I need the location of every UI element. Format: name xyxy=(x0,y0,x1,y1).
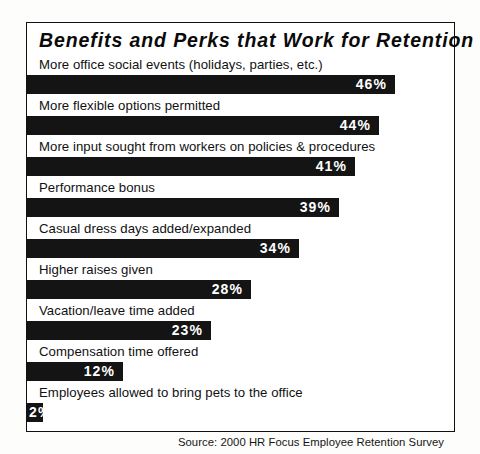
bar-fill xyxy=(27,116,379,135)
bar-category-label: Employees allowed to bring pets to the o… xyxy=(27,383,454,403)
bar-value-label: 28% xyxy=(212,280,243,299)
bar-category-label: More office social events (holidays, par… xyxy=(27,55,454,75)
bar-track: 39% xyxy=(27,198,454,217)
bar-track: 44% xyxy=(27,116,454,135)
bar-value-label: 2% xyxy=(29,403,51,422)
bar-category-label: Vacation/leave time added xyxy=(27,301,454,321)
bar-track: 12% xyxy=(27,362,454,381)
bar-track: 41% xyxy=(27,157,454,176)
bar-row: Higher raises given28% xyxy=(27,260,454,301)
chart-title: Benefits and Perks that Work for Retenti… xyxy=(27,23,454,55)
chart-card: Benefits and Perks that Work for Retenti… xyxy=(26,22,455,432)
source-note: Source: 2000 HR Focus Employee Retention… xyxy=(27,424,454,448)
bar-row: More input sought from workers on polici… xyxy=(27,137,454,178)
bar-value-label: 23% xyxy=(172,321,203,340)
bar-row: Employees allowed to bring pets to the o… xyxy=(27,383,454,424)
bar-row: Performance bonus39% xyxy=(27,178,454,219)
bar-row: More flexible options permitted44% xyxy=(27,96,454,137)
bar-fill xyxy=(27,75,395,94)
bar-row: More office social events (holidays, par… xyxy=(27,55,454,96)
bar-value-label: 44% xyxy=(340,116,371,135)
bar-fill xyxy=(27,239,299,258)
bar-value-label: 41% xyxy=(316,157,347,176)
bar-value-label: 46% xyxy=(356,75,387,94)
bar-value-label: 34% xyxy=(260,239,291,258)
bar-category-label: Performance bonus xyxy=(27,178,454,198)
bar-category-label: Higher raises given xyxy=(27,260,454,280)
bar-track: 2% xyxy=(27,403,454,422)
bar-fill xyxy=(27,157,355,176)
bar-track: 28% xyxy=(27,280,454,299)
bar-track: 34% xyxy=(27,239,454,258)
bar-row: Casual dress days added/expanded34% xyxy=(27,219,454,260)
bar-fill xyxy=(27,198,339,217)
bar-row: Compensation time offered12% xyxy=(27,342,454,383)
bar-track: 23% xyxy=(27,321,454,340)
bar-row: Vacation/leave time added23% xyxy=(27,301,454,342)
bar-category-label: More input sought from workers on polici… xyxy=(27,137,454,157)
bar-category-label: Casual dress days added/expanded xyxy=(27,219,454,239)
bar-value-label: 12% xyxy=(84,362,115,381)
bar-value-label: 39% xyxy=(300,198,331,217)
bar-track: 46% xyxy=(27,75,454,94)
bar-category-label: Compensation time offered xyxy=(27,342,454,362)
bar-chart-plot-area: More office social events (holidays, par… xyxy=(27,55,454,424)
bar-category-label: More flexible options permitted xyxy=(27,96,454,116)
